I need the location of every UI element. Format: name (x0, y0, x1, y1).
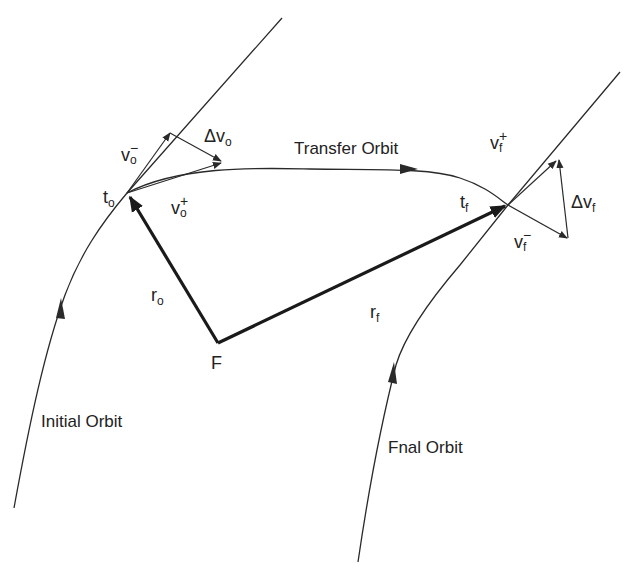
v-f-minus-subscript: f (523, 241, 526, 253)
dv-f-base: Δv (571, 192, 592, 212)
v-o-plus-label: v+o (171, 199, 192, 219)
dv-o-base: Δv (204, 126, 225, 146)
t-f-label: tf (460, 193, 468, 211)
v-o-plus-subscript: o (180, 207, 187, 219)
v-f-plus-base: v (490, 133, 499, 153)
orbit-transfer-diagram (0, 0, 625, 577)
t-o-label: to (103, 188, 115, 206)
v-f-minus-base: v (514, 232, 523, 252)
transfer-orbit-label: Transfer Orbit (294, 140, 398, 157)
dv-o-subscript: o (225, 135, 232, 149)
v-f-plus-subscript: f (499, 142, 502, 154)
v-f-plus-label: v+f (490, 134, 511, 154)
r-o-subscript: o (157, 294, 164, 308)
r-o-label: ro (151, 286, 164, 304)
v-f-minus-label: v−f (514, 233, 535, 253)
focus-label: F (211, 354, 222, 372)
dv-f-label: Δvf (571, 193, 595, 211)
final-orbit-label: Fnal Orbit (388, 439, 463, 456)
v-o-minus-subscript: o (130, 154, 137, 166)
dv-f-subscript: f (592, 201, 595, 215)
r-f-subscript: f (376, 311, 379, 325)
v-o-minus-label: v−o (121, 146, 142, 166)
dv-o-label: Δvo (204, 127, 232, 145)
t-f-subscript: f (465, 201, 468, 215)
v-f-plus-vector (508, 161, 556, 205)
r-f-label: rf (370, 303, 379, 321)
v-o-minus-base: v (121, 145, 130, 165)
initial-orbit-label: Initial Orbit (41, 413, 122, 430)
initial-orbit-curve (14, 18, 282, 508)
dv-f-vector (559, 160, 568, 238)
r-f-vector (218, 206, 505, 343)
transfer-orbit-direction-arrow-icon (400, 164, 418, 174)
initial-orbit-direction-arrow-icon (56, 298, 65, 319)
t-o-subscript: o (108, 196, 115, 210)
v-o-plus-base: v (171, 198, 180, 218)
